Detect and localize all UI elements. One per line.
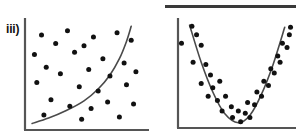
data-point [208,73,213,78]
data-point [236,109,241,114]
data-point [287,32,292,37]
trend-curve-iv [190,25,285,123]
data-point [217,79,222,84]
data-point [96,89,101,94]
data-point [100,56,105,61]
data-point [39,32,44,37]
data-point [133,69,138,74]
data-point [107,74,112,79]
data-point [86,67,91,72]
data-point [129,38,134,43]
data-point [199,81,204,86]
data-point [275,53,280,58]
data-point [243,111,248,116]
trend-curve-iii [32,26,131,123]
data-point [41,112,46,117]
data-point [72,50,77,55]
data-point [117,115,122,120]
data-point [79,117,84,122]
data-point [131,102,136,107]
data-point [48,97,53,102]
data-point [124,82,129,87]
data-point [77,84,82,89]
data-point [261,79,266,84]
data-point [32,52,37,57]
data-point [105,99,110,104]
data-point [189,24,194,29]
data-point [215,98,220,103]
data-point [259,94,264,99]
panel-iii-plot [0,0,150,139]
data-point [206,94,211,99]
data-point [272,70,277,75]
data-point [58,71,63,76]
data-point [115,30,120,35]
data-point [199,43,204,48]
data-point [122,61,127,66]
data-point [223,94,228,99]
data-point [203,62,208,67]
data-point [238,119,243,124]
data-point [194,32,199,37]
panel-iv-plot [150,0,296,139]
data-point [44,65,49,70]
data-point [266,83,271,88]
data-point [288,25,293,30]
data-point [280,41,285,46]
data-point [210,85,215,90]
data-point [220,109,225,114]
data-point [229,104,234,109]
data-points-iii [32,28,138,122]
data-point [268,66,273,71]
data-point [191,60,196,65]
data-point [252,102,257,107]
data-point [82,43,87,48]
data-point [245,100,250,105]
data-point [254,89,259,94]
data-point [230,115,235,120]
figure-panel-group: iii) iv) [0,0,296,139]
data-point [65,28,70,33]
panel-iv: iv) [150,0,296,139]
data-point [34,80,39,85]
data-point [91,35,96,40]
data-point [278,60,283,65]
panel-iii: iii) [0,0,150,139]
data-point [179,41,184,46]
data-point [53,41,58,46]
data-point [67,104,72,109]
data-points-iv [179,24,293,124]
data-point [247,115,252,120]
data-point [285,45,290,50]
data-point [89,106,94,111]
